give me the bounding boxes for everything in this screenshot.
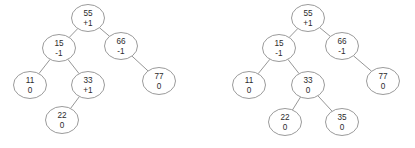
node-balance-factor-label: 0 (247, 86, 252, 95)
node-key-label: 11 (245, 76, 254, 85)
node-key-label: 35 (337, 113, 347, 122)
tree-node[interactable]: 33+1 (72, 72, 105, 99)
tree-edge (318, 96, 332, 111)
node-key-label: 66 (337, 37, 347, 46)
tree-node[interactable]: 220 (269, 109, 302, 136)
node-key-label: 33 (303, 76, 313, 85)
tree-edge (288, 59, 299, 73)
tree-edge (69, 29, 78, 38)
node-key-label: 55 (83, 9, 93, 18)
node-key-label: 55 (303, 9, 313, 18)
tree-node[interactable]: 66-1 (105, 33, 138, 60)
avl-tree-before: 55+115-166-111033+1770220 (14, 5, 176, 134)
node-balance-factor-label: +1 (83, 86, 93, 95)
avl-tree-svg-canvas: 55+115-166-111033+177022055+115-166-1110… (0, 0, 415, 148)
avl-tree-diagram-container: 55+115-166-111033+177022055+115-166-1110… (0, 0, 415, 148)
tree-nodes-group: 55+115-166-1110330770220350 (233, 5, 400, 136)
node-key-label: 15 (54, 39, 64, 48)
tree-edge (320, 28, 331, 37)
node-key-label: 22 (57, 111, 67, 120)
node-balance-factor-label: -1 (275, 49, 283, 58)
tree-node[interactable]: 55+1 (292, 5, 325, 32)
node-balance-factor-label: -1 (117, 47, 125, 56)
node-balance-factor-label: +1 (303, 19, 313, 28)
tree-node[interactable]: 66-1 (326, 33, 359, 60)
node-key-label: 77 (378, 72, 388, 81)
tree-node[interactable]: 350 (326, 109, 359, 136)
avl-tree-after: 55+115-166-1110330770220350 (233, 5, 400, 136)
node-key-label: 15 (274, 39, 284, 48)
node-balance-factor-label: 0 (306, 86, 311, 95)
tree-node[interactable]: 55+1 (72, 5, 105, 32)
node-key-label: 22 (280, 113, 290, 122)
node-balance-factor-label: 0 (28, 86, 33, 95)
tree-edge (353, 56, 371, 72)
tree-node[interactable]: 330 (292, 72, 325, 99)
node-key-label: 33 (83, 76, 93, 85)
tree-node[interactable]: 770 (143, 68, 176, 95)
node-balance-factor-label: -1 (55, 49, 63, 58)
tree-edge (99, 28, 109, 37)
tree-node[interactable]: 770 (367, 68, 400, 95)
node-balance-factor-label: 0 (60, 121, 65, 130)
tree-edge (71, 97, 80, 109)
tree-nodes-group: 55+115-166-111033+1770220 (14, 5, 176, 134)
tree-node[interactable]: 15-1 (43, 35, 76, 62)
node-balance-factor-label: +1 (83, 19, 93, 28)
tree-node[interactable]: 110 (14, 72, 47, 99)
tree-edge (39, 59, 50, 73)
tree-edge (289, 29, 298, 38)
node-balance-factor-label: 0 (340, 123, 345, 132)
tree-edge (132, 56, 148, 71)
node-key-label: 77 (154, 72, 164, 81)
tree-node[interactable]: 110 (233, 72, 266, 99)
tree-node[interactable]: 220 (46, 107, 79, 134)
node-balance-factor-label: -1 (338, 47, 346, 56)
tree-edge (258, 59, 270, 74)
tree-edge (292, 97, 300, 110)
node-balance-factor-label: 0 (157, 82, 162, 91)
tree-node[interactable]: 15-1 (263, 35, 296, 62)
node-key-label: 11 (26, 76, 35, 85)
node-balance-factor-label: 0 (381, 82, 386, 91)
node-balance-factor-label: 0 (283, 123, 288, 132)
tree-edge (68, 59, 79, 73)
node-key-label: 66 (116, 37, 126, 46)
